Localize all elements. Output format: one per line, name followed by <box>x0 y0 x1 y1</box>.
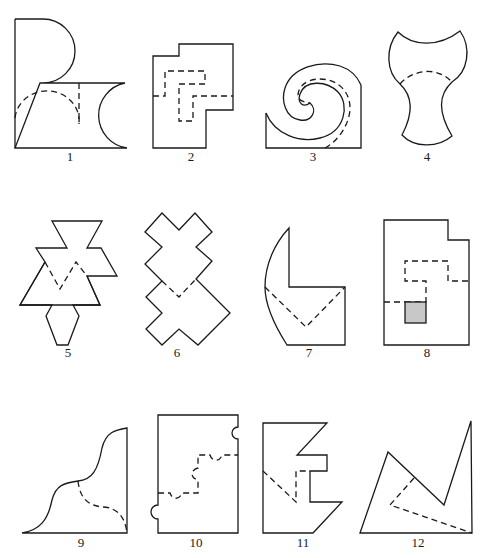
figure-11-shape <box>263 423 342 533</box>
figure-label-1: 1 <box>67 150 74 164</box>
figure-label-6: 6 <box>174 346 181 360</box>
figure-3-shape <box>266 64 361 148</box>
figure-1-shape <box>15 19 127 148</box>
figure-9-shape <box>22 428 127 533</box>
figure-6-shape <box>145 213 230 345</box>
figure-10-shape <box>151 415 238 533</box>
figure-label-10: 10 <box>190 536 203 550</box>
puzzle-figures-canvas <box>0 0 489 558</box>
figure-label-11: 11 <box>297 536 310 550</box>
figure-label-2: 2 <box>188 150 195 164</box>
figure-label-8: 8 <box>424 346 431 360</box>
figure-label-12: 12 <box>412 536 425 550</box>
shaded-square <box>405 302 426 323</box>
figure-label-5: 5 <box>65 346 72 360</box>
figure-8-shape <box>384 220 469 345</box>
figure-5-shape <box>20 221 117 345</box>
figure-label-4: 4 <box>424 150 431 164</box>
figure-label-7: 7 <box>306 346 313 360</box>
figure-label-9: 9 <box>78 536 85 550</box>
figure-2-shape <box>153 44 233 148</box>
figure-7-shape <box>265 228 345 345</box>
figure-4-shape <box>389 31 467 145</box>
figure-12-shape <box>360 421 472 533</box>
figure-label-3: 3 <box>310 150 317 164</box>
